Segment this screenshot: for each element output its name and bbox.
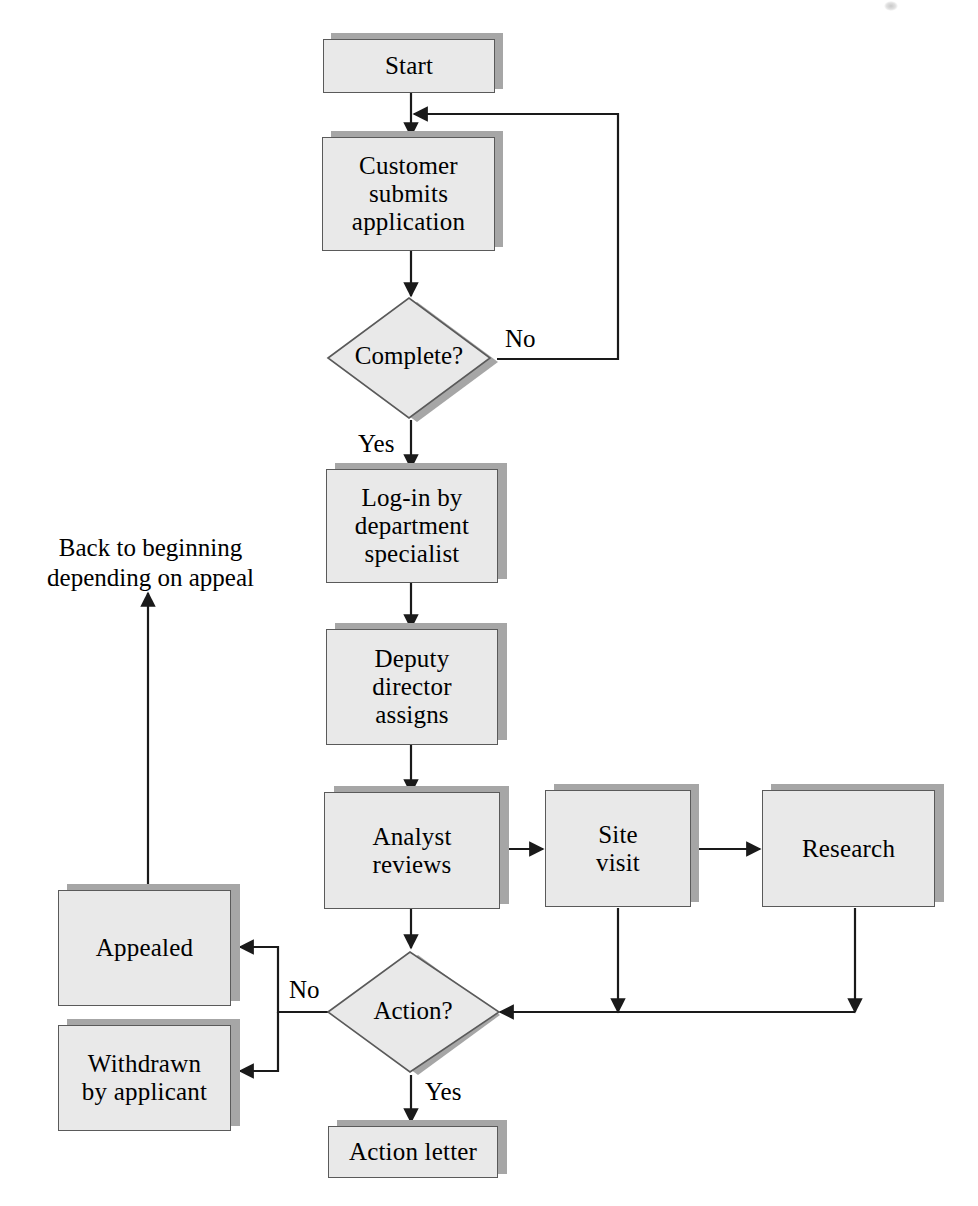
node-action-letter[interactable]: Action letter xyxy=(328,1126,498,1178)
node-customer-submits[interactable]: Customer submits application xyxy=(322,137,495,251)
node-appealed[interactable]: Appealed xyxy=(58,890,231,1006)
action-diamond-shape xyxy=(322,944,512,1082)
node-complete-decision[interactable]: Complete? xyxy=(322,292,506,428)
complete-diamond-shape xyxy=(322,292,506,428)
node-research[interactable]: Research xyxy=(762,790,935,907)
scan-artifact xyxy=(884,1,898,11)
node-withdrawn[interactable]: Withdrawn by applicant xyxy=(58,1025,231,1131)
edge-action-no-to-withdrawn xyxy=(240,1012,278,1071)
edge-label-action-no: No xyxy=(289,976,320,1004)
node-action-decision[interactable]: Action? xyxy=(322,944,512,1082)
flowchart-canvas: Start Customer submits application Compl… xyxy=(0,0,978,1206)
edge-label-action-yes: Yes xyxy=(425,1078,461,1106)
node-start[interactable]: Start xyxy=(323,39,495,93)
node-analyst[interactable]: Analyst reviews xyxy=(324,792,500,909)
note-back-to-beginning: Back to beginning depending on appeal xyxy=(8,533,293,593)
node-site-visit[interactable]: Site visit xyxy=(545,790,691,907)
node-deputy[interactable]: Deputy director assigns xyxy=(326,629,498,745)
node-login[interactable]: Log-in by department specialist xyxy=(326,469,498,583)
edge-label-complete-yes: Yes xyxy=(358,430,394,458)
edge-label-complete-no: No xyxy=(505,325,536,353)
